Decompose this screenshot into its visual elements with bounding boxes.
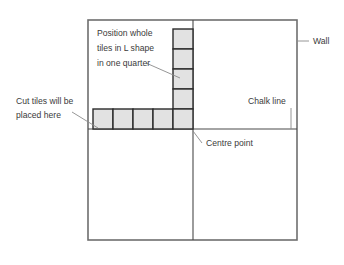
annotation-wall: Wall: [313, 36, 329, 46]
annotation-centre-point: Centre point: [206, 138, 253, 148]
annotation-position-whole-tiles-line-2: tiles in L shape: [97, 43, 154, 53]
annotation-centre-point-line-1: Centre point: [206, 138, 253, 148]
row-tile-3: [133, 109, 153, 129]
column-tile-4: [173, 89, 193, 109]
tiling-diagram: Position wholetiles in L shapein one qua…: [0, 0, 344, 265]
annotation-cut-tiles-line-1: Cut tiles will be: [16, 96, 74, 106]
annotation-chalk-line-line-1: Chalk line: [248, 96, 286, 106]
annotation-wall-line-1: Wall: [313, 36, 329, 46]
row-tile-4: [153, 109, 173, 129]
annotation-cut-tiles-line-2: placed here: [16, 110, 61, 120]
column-tile-3: [173, 69, 193, 89]
column-tile-1: [173, 29, 193, 49]
row-tile-2: [113, 109, 133, 129]
annotation-position-whole-tiles: Position wholetiles in L shapein one qua…: [97, 28, 154, 68]
diagram-background: [0, 0, 344, 265]
annotation-position-whole-tiles-line-3: in one quarter: [97, 58, 150, 68]
annotation-chalk-line: Chalk line: [248, 96, 286, 106]
row-tile-1: [93, 109, 113, 129]
annotation-position-whole-tiles-line-1: Position whole: [97, 28, 153, 38]
column-tile-2: [173, 49, 193, 69]
diagram-canvas: Position wholetiles in L shapein one qua…: [0, 0, 344, 265]
column-tile-5: [173, 109, 193, 129]
